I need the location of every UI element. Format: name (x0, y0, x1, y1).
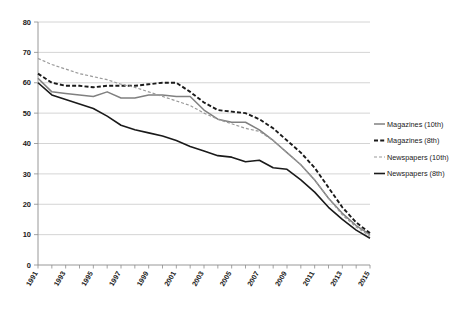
x-tick-label: 2009 (273, 270, 289, 288)
x-tick-label: 2013 (328, 270, 344, 288)
series-line-3 (38, 58, 370, 236)
y-tick-label: 10 (23, 230, 31, 239)
y-tick-label: 40 (23, 139, 31, 148)
y-tick-label: 80 (23, 18, 31, 27)
gridlines (38, 22, 370, 235)
y-tick-label: 30 (23, 170, 31, 179)
x-tick-label: 1991 (24, 270, 40, 288)
legend-label-4: Newspapers (8th) (387, 169, 445, 178)
chart-legend: Magazines (10th)Magazines (8th)Newspaper… (374, 120, 449, 179)
y-tick-label: 70 (23, 48, 31, 57)
y-tick-label: 50 (23, 109, 31, 118)
series-line-4 (38, 83, 370, 239)
series-line-2 (38, 74, 370, 233)
x-tick-label: 2001 (162, 270, 178, 288)
x-axis: 1991199319951997199920012003200520072009… (24, 265, 372, 288)
x-tick-label: 2007 (245, 270, 261, 288)
x-tick-label: 2015 (356, 270, 372, 288)
line-chart: 01020304050607080 1991199319951997199920… (0, 0, 471, 318)
x-tick-label: 2003 (190, 270, 206, 288)
y-tick-label: 0 (27, 261, 31, 270)
legend-label-3: Newspapers (10th) (387, 153, 449, 162)
legend-label-1: Magazines (10th) (387, 120, 443, 129)
x-tick-label: 1999 (135, 270, 151, 288)
x-tick-label: 1995 (79, 270, 95, 288)
x-tick-label: 1993 (52, 270, 68, 288)
chart-container: 01020304050607080 1991199319951997199920… (0, 0, 471, 318)
legend-label-2: Magazines (8th) (387, 136, 439, 145)
x-tick-label: 2005 (218, 270, 234, 288)
y-tick-label: 20 (23, 200, 31, 209)
y-axis: 01020304050607080 (23, 18, 38, 270)
x-tick-label: 2011 (301, 269, 317, 287)
x-tick-label: 1997 (107, 270, 123, 288)
y-tick-label: 60 (23, 78, 31, 87)
data-series (38, 58, 370, 238)
